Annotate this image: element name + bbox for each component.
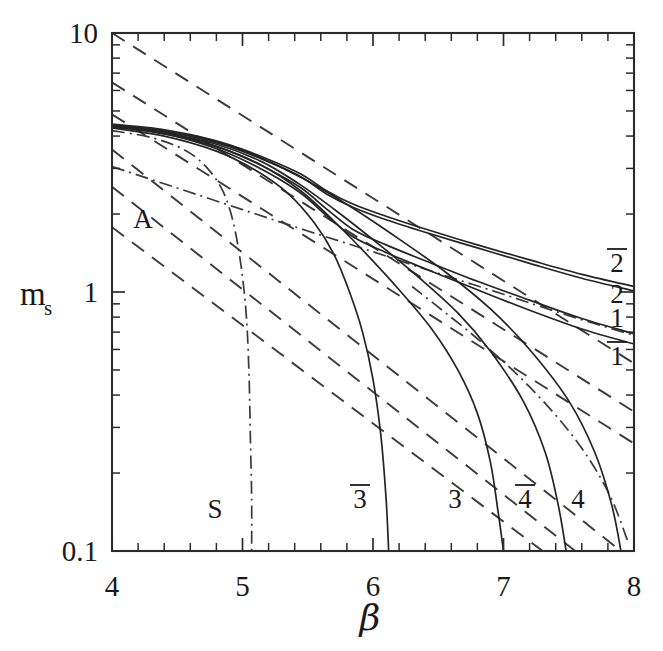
dashed-reference-lines xyxy=(112,33,634,551)
y-tick-label: 0.1 xyxy=(62,535,98,567)
plot-frame xyxy=(112,33,634,551)
x-tick-label: 5 xyxy=(235,570,250,602)
label-2-bar: 2 xyxy=(607,248,627,278)
label-A-text: A xyxy=(133,204,153,234)
curve-1 xyxy=(112,125,634,333)
dash-6 xyxy=(112,227,543,551)
label-4-bar: 4 xyxy=(515,484,535,514)
curve-1bar xyxy=(112,126,634,344)
y-axis-title: m xyxy=(20,276,46,312)
curve-4bar xyxy=(112,126,566,551)
x-axis-title: β xyxy=(358,597,381,638)
label-3-bar-text: 3 xyxy=(353,484,367,514)
curve-2 xyxy=(112,125,634,291)
axis-ticks xyxy=(112,33,634,551)
curve-end-labels: 22113344AS xyxy=(133,204,627,524)
label-4: 4 xyxy=(571,484,585,514)
label-3-bar: 3 xyxy=(350,484,370,514)
dash-5 xyxy=(112,187,575,551)
label-1-bar-text: 1 xyxy=(610,341,624,371)
label-1: 1 xyxy=(610,303,624,333)
dash-1 xyxy=(112,33,634,363)
label-2-bar-text: 2 xyxy=(610,248,624,278)
label-4-text: 4 xyxy=(571,484,585,514)
label-3-text: 3 xyxy=(448,484,462,514)
label-4-bar-text: 4 xyxy=(518,484,532,514)
axis-titles: msβ xyxy=(20,276,380,638)
label-S-text: S xyxy=(207,494,222,524)
x-tick-label: 7 xyxy=(496,570,511,602)
x-tick-label: 4 xyxy=(105,570,120,602)
dashdot-reference-lines xyxy=(112,131,634,551)
label-A: A xyxy=(133,204,153,234)
label-1-text: 1 xyxy=(610,303,624,333)
label-S: S xyxy=(207,494,222,524)
x-tick-label: 8 xyxy=(627,570,642,602)
solid-data-curves xyxy=(112,124,634,551)
y-tick-label: 1 xyxy=(84,276,99,308)
y-tick-label: 10 xyxy=(69,17,98,49)
y-axis-title-subscript: s xyxy=(44,296,52,320)
axes-frame xyxy=(112,33,634,551)
figure-container: 456780.1110 22113344AS msβ xyxy=(0,0,663,651)
label-3: 3 xyxy=(448,484,462,514)
dash-3 xyxy=(112,114,634,443)
log-log-plot: 456780.1110 22113344AS msβ xyxy=(0,0,663,651)
curve-S xyxy=(112,131,252,551)
curve-3bar xyxy=(112,128,389,551)
